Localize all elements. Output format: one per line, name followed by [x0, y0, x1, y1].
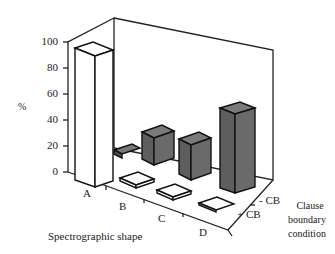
- ytick-60: 60: [32, 87, 58, 99]
- bar-C-plus-cb: [157, 184, 191, 200]
- series-label-minus-cb: - CB: [259, 194, 280, 206]
- z-axis-label-line3: condition: [284, 228, 330, 240]
- y-axis-label: %: [18, 101, 26, 113]
- bar-C-minus-cb: [179, 132, 211, 180]
- ytick-80: 80: [32, 61, 58, 73]
- bar-A-minus-cb: [114, 144, 140, 158]
- bar-D-minus-cb: [220, 102, 255, 193]
- category-d: D: [199, 226, 207, 238]
- z-axis-label-line2: boundary: [284, 214, 330, 226]
- z-axis-label-line1: Clause: [290, 200, 330, 212]
- category-b: B: [119, 200, 126, 212]
- ytick-100: 100: [32, 35, 58, 47]
- x-axis-label: Spectrographic shape: [48, 230, 142, 242]
- category-a: A: [83, 187, 91, 199]
- bar-D-plus-cb: [199, 197, 234, 212]
- bar-B-minus-cb: [142, 125, 174, 165]
- bar-B-plus-cb: [120, 172, 154, 188]
- bar-A-plus-cb: [75, 42, 113, 187]
- ytick-40: 40: [32, 113, 58, 125]
- ytick-0: 0: [32, 165, 58, 177]
- series-label-plus-cb: + CB: [237, 208, 261, 220]
- ytick-20: 20: [32, 139, 58, 151]
- category-c: C: [158, 212, 165, 224]
